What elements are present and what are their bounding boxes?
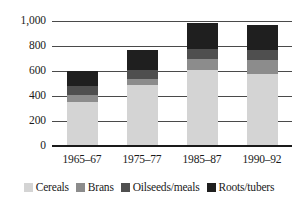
bar-segment[interactable] — [247, 60, 278, 73]
bar-segment[interactable] — [67, 71, 98, 86]
bar-segment[interactable] — [187, 49, 218, 59]
bar-segment[interactable] — [127, 85, 158, 146]
bar-segment[interactable] — [67, 102, 98, 146]
y-tick-label: 200 — [0, 115, 46, 127]
legend-label: Oilseeds/meals — [133, 181, 200, 193]
bar-segment[interactable] — [187, 23, 218, 49]
bar-group[interactable] — [247, 25, 278, 146]
legend-swatch-oilseeds-meals — [121, 183, 130, 192]
stacked-bar-chart: 02004006008001,000 1965–671975–771985–87… — [0, 0, 298, 204]
bar-segment[interactable] — [127, 50, 158, 70]
bar-group[interactable] — [67, 71, 98, 146]
y-tick-label: 800 — [0, 40, 46, 52]
legend-swatch-cereals — [24, 183, 33, 192]
y-tick-label: 400 — [0, 90, 46, 102]
legend-item[interactable]: Brans — [76, 181, 114, 193]
y-tick-label: 0 — [0, 140, 46, 152]
x-axis-label: 1975–77 — [112, 152, 172, 166]
bar-segment[interactable] — [247, 50, 278, 61]
bar-segment[interactable] — [67, 86, 98, 95]
legend-item[interactable]: Cereals — [24, 181, 69, 193]
y-tick-label: 1,000 — [0, 15, 46, 27]
bar-segment[interactable] — [247, 25, 278, 49]
legend-swatch-roots-tubers — [207, 183, 216, 192]
legend-swatch-brans — [76, 183, 85, 192]
legend-label: Cereals — [36, 181, 69, 193]
x-axis-line — [52, 145, 292, 147]
bar-segment[interactable] — [127, 70, 158, 78]
bar-segment[interactable] — [67, 95, 98, 102]
x-axis-label: 1985–87 — [172, 152, 232, 166]
x-axis-label: 1990–92 — [232, 152, 292, 166]
chart-legend: CerealsBransOilseeds/mealsRoots/tubers — [0, 178, 298, 196]
bar-segment[interactable] — [187, 59, 218, 70]
legend-item[interactable]: Oilseeds/meals — [121, 181, 200, 193]
bar-segment[interactable] — [187, 70, 218, 146]
bar-segment[interactable] — [247, 74, 278, 147]
legend-label: Brans — [88, 181, 114, 193]
bar-group[interactable] — [187, 23, 218, 146]
bar-segment[interactable] — [127, 79, 158, 86]
y-tick-label: 600 — [0, 65, 46, 77]
bars-layer — [52, 21, 292, 146]
legend-item[interactable]: Roots/tubers — [207, 181, 275, 193]
x-axis-label: 1965–67 — [52, 152, 112, 166]
legend-label: Roots/tubers — [219, 181, 275, 193]
bar-group[interactable] — [127, 50, 158, 146]
x-axis-labels: 1965–671975–771985–871990–92 — [52, 152, 292, 168]
